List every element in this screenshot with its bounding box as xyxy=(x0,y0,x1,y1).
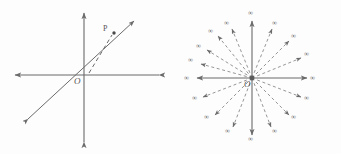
right-infinity-label-d165: ∞ xyxy=(188,57,193,64)
right-infinity-label-d148: ∞ xyxy=(196,43,201,50)
right-infinity-label-south: ∞ xyxy=(248,136,253,143)
right-ray-d-148 xyxy=(207,50,252,78)
right-infinity-label-d112: ∞ xyxy=(224,20,229,27)
right-infinity-label-east: ∞ xyxy=(310,75,315,82)
right-infinity-label-d129: ∞ xyxy=(208,28,213,35)
right-infinity-label-d292: ∞ xyxy=(272,128,277,135)
right-infinity-label-north: ∞ xyxy=(248,10,253,17)
right-infinity-label-d225: ∞ xyxy=(204,114,209,121)
right-infinity-label-d247: ∞ xyxy=(225,128,230,135)
right-infinity-label-d337: ∞ xyxy=(304,95,309,102)
right-ray-d-337 xyxy=(252,78,301,97)
right-diagram-panel: O ∞ ∞ ∞ ∞ ∞ ∞ ∞ ∞ ∞ ∞ ∞ ∞ ∞ ∞ ∞ ∞ ∞ xyxy=(170,0,341,154)
left-diagram-panel: P O xyxy=(0,0,170,154)
left-solid-line xyxy=(28,21,134,119)
right-ray-d-129 xyxy=(218,36,252,78)
right-infinity-label-d45: ∞ xyxy=(291,33,296,40)
right-origin-label: O xyxy=(244,80,251,89)
right-ray-d-112 xyxy=(232,29,252,78)
right-infinity-label-west: ∞ xyxy=(184,75,189,82)
right-infinity-label-d315: ∞ xyxy=(291,114,296,121)
right-ray-d-315 xyxy=(252,78,289,115)
right-infinity-label-d22: ∞ xyxy=(304,51,309,58)
right-infinity-label-d202: ∞ xyxy=(192,95,197,102)
right-infinity-label-d67: ∞ xyxy=(272,20,277,27)
left-point-p-marker xyxy=(112,31,115,34)
left-origin-label: O xyxy=(74,77,81,86)
right-ray-d-292 xyxy=(252,78,271,127)
right-ray-d-165 xyxy=(201,64,252,78)
left-diagram-svg xyxy=(0,0,170,154)
figure-root: P O xyxy=(0,0,341,154)
left-dashed-line xyxy=(89,35,112,73)
right-ray-d-45 xyxy=(252,41,289,78)
right-diagram-svg xyxy=(170,0,341,154)
left-point-p-label: P xyxy=(103,25,107,33)
